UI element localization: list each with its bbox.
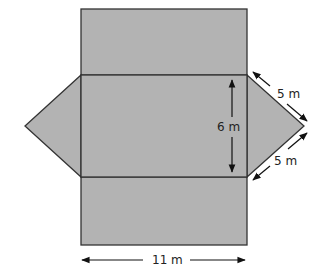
left-triangle-face xyxy=(25,75,81,177)
height-label: 6 m xyxy=(217,120,240,134)
bottom-rectangle-face xyxy=(81,177,247,245)
width-label: 11 m xyxy=(152,253,183,267)
slant-bottom-label: 5 m xyxy=(274,154,297,168)
prism-net-diagram: 6 m 5 m 5 m 11 m xyxy=(0,0,325,276)
slant-top-label: 5 m xyxy=(277,87,300,101)
top-rectangle-face xyxy=(81,9,247,75)
